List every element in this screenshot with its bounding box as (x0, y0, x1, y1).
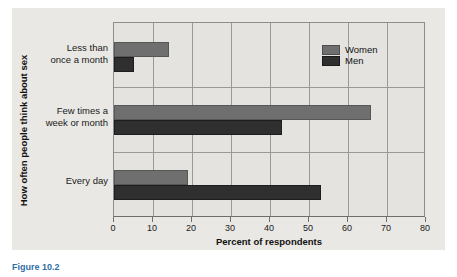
x-tick-label-0: 0 (110, 223, 115, 233)
x-axis-title: Percent of respondents (113, 236, 425, 247)
bar-women-less-than-once-a-month (114, 42, 169, 57)
y-axis-title: How often people think about sex (18, 46, 29, 216)
legend-item-women: Women (322, 44, 378, 55)
x-tick-mark-30 (230, 217, 231, 222)
bar-women-every-day (114, 170, 188, 185)
legend: Women Men (322, 44, 378, 66)
x-tick-mark-40 (269, 217, 270, 222)
band-separator-2 (114, 152, 424, 153)
bar-men-few-times-a-week-or-month (114, 120, 282, 135)
category-label-less-than-once-a-month: Less than once a month (40, 42, 108, 66)
legend-item-men: Men (322, 55, 378, 66)
x-tick-mark-70 (386, 217, 387, 222)
legend-label-women: Women (345, 44, 378, 55)
figure-container: How often people think about sex Less th… (0, 0, 457, 277)
x-tick-mark-60 (347, 217, 348, 222)
bar-men-every-day (114, 185, 321, 200)
x-tick-label-80: 80 (420, 223, 430, 233)
x-tick-mark-0 (113, 217, 114, 222)
x-tick-label-50: 50 (303, 223, 313, 233)
x-tick-label-20: 20 (186, 223, 196, 233)
band-separator-1 (114, 87, 424, 88)
category-label-few-times-a-week-or-month: Few times a week or month (40, 105, 108, 129)
x-tick-label-10: 10 (147, 223, 157, 233)
x-tick-mark-20 (191, 217, 192, 222)
figure-caption: Figure 10.2 (12, 262, 60, 274)
legend-swatch-men-icon (322, 56, 340, 66)
x-tick-mark-50 (308, 217, 309, 222)
x-tick-label-60: 60 (342, 223, 352, 233)
x-tick-mark-80 (425, 217, 426, 222)
x-tick-label-70: 70 (381, 223, 391, 233)
category-label-every-day: Every day (40, 175, 108, 187)
legend-swatch-women-icon (322, 45, 340, 55)
legend-label-men: Men (345, 55, 363, 66)
plot-area (113, 22, 425, 217)
x-tick-mark-10 (152, 217, 153, 222)
bar-women-few-times-a-week-or-month (114, 105, 371, 120)
x-tick-label-30: 30 (225, 223, 235, 233)
bar-men-less-than-once-a-month (114, 57, 134, 72)
x-tick-label-40: 40 (264, 223, 274, 233)
gridline-70 (387, 23, 388, 216)
